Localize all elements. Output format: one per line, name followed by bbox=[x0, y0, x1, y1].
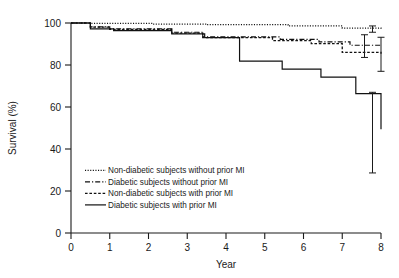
series-line-2 bbox=[71, 23, 381, 54]
x-tick-label: 0 bbox=[68, 242, 74, 253]
series-line-1 bbox=[71, 23, 381, 46]
x-tick-label: 3 bbox=[184, 242, 190, 253]
y-tick-label: 80 bbox=[50, 60, 62, 71]
chart-canvas: 020406080100 012345678 Year Survival (%)… bbox=[0, 0, 399, 278]
x-tick-label: 6 bbox=[301, 242, 307, 253]
legend-label-3: Diabetic subjects with prior MI bbox=[108, 201, 217, 210]
y-tick-label: 40 bbox=[50, 144, 62, 155]
series-line-3 bbox=[71, 23, 381, 129]
y-axis-title: Survival (%) bbox=[7, 101, 18, 155]
y-tick-label: 60 bbox=[50, 102, 62, 113]
x-tick-label: 2 bbox=[146, 242, 152, 253]
y-tick-label: 0 bbox=[55, 228, 61, 239]
legend-label-1: Diabetic subjects without prior MI bbox=[108, 178, 228, 187]
y-tick-label: 20 bbox=[50, 186, 62, 197]
series-curves bbox=[71, 23, 381, 129]
survival-chart-figure: 020406080100 012345678 Year Survival (%)… bbox=[0, 0, 399, 278]
y-tick-label: 100 bbox=[44, 18, 61, 29]
y-axis-ticks bbox=[65, 23, 71, 233]
legend-label-2: Non-diabetic subjects with prior MI bbox=[108, 189, 233, 198]
x-axis-tick-labels: 012345678 bbox=[68, 242, 384, 253]
x-axis-title: Year bbox=[216, 259, 237, 270]
x-tick-label: 7 bbox=[339, 242, 345, 253]
y-axis-tick-labels: 020406080100 bbox=[44, 18, 61, 239]
x-tick-label: 1 bbox=[107, 242, 113, 253]
x-tick-label: 5 bbox=[262, 242, 268, 253]
x-tick-label: 4 bbox=[223, 242, 229, 253]
chart-legend: Non-diabetic subjects without prior MIDi… bbox=[85, 166, 245, 210]
legend-label-0: Non-diabetic subjects without prior MI bbox=[108, 166, 245, 175]
x-tick-label: 8 bbox=[378, 242, 384, 253]
x-axis-ticks bbox=[71, 233, 381, 239]
